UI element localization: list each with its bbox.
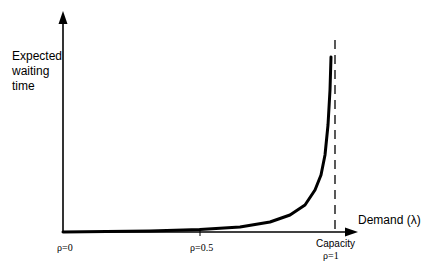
- y-axis-label-line3: time: [12, 79, 35, 93]
- tick-label-capacity: Capacity: [316, 238, 355, 249]
- chart-canvas: Expected waiting time Demand (λ) ρ=0 ρ=0…: [0, 0, 427, 269]
- y-axis-label-line2: waiting: [11, 64, 49, 78]
- waiting-time-curve: [63, 57, 331, 232]
- tick-label-rho1: ρ=1: [323, 250, 339, 261]
- x-axis-label: Demand (λ): [358, 213, 421, 227]
- tick-label-rho0: ρ=0: [57, 242, 73, 253]
- tick-label-rho05: ρ=0.5: [190, 242, 213, 253]
- y-axis-label-line1: Expected: [12, 49, 62, 63]
- y-axis-arrow-icon: [59, 11, 68, 24]
- x-axis-arrow-icon: [345, 228, 358, 237]
